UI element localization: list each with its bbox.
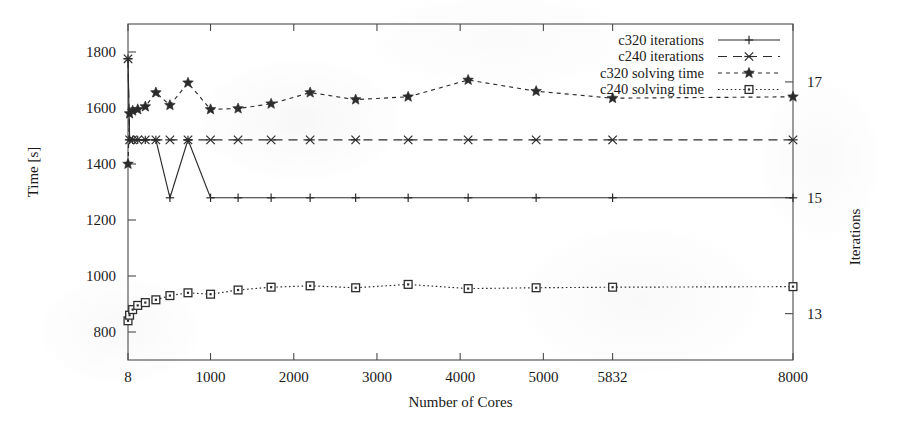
data-point-square: [309, 285, 311, 287]
y2-tick-label: 15: [807, 190, 822, 206]
series-line: [128, 284, 793, 320]
y2-axis-title: Iterations: [847, 209, 863, 266]
data-point-star: [233, 103, 244, 113]
data-point-square: [209, 293, 211, 295]
data-point-square: [169, 295, 171, 297]
data-point-square: [187, 292, 189, 294]
x-tick-label: 1000: [196, 369, 226, 385]
data-point-square: [355, 287, 357, 289]
data-point-square: [237, 289, 239, 291]
x-tick-label: 3000: [362, 369, 392, 385]
y-tick-label: 1200: [86, 212, 116, 228]
data-point-square: [792, 286, 794, 288]
chart-figure: 81000200030004000500058328000Number of C…: [0, 0, 898, 429]
legend-label-1: c240 iterations: [618, 48, 704, 64]
y-axis-title: Time [s]: [25, 147, 41, 198]
series-c240-solving-time: [124, 281, 797, 325]
x-tick-label: 8: [124, 369, 132, 385]
legend-sample-3: [718, 86, 780, 94]
data-point-square: [137, 304, 139, 306]
data-point-square: [748, 88, 750, 90]
y-tick-label: 1000: [86, 268, 116, 284]
data-point-star: [350, 94, 361, 104]
x-tick-label: 2000: [279, 369, 309, 385]
x-tick-label: 5832: [598, 369, 628, 385]
legend-sample-2: [718, 67, 780, 77]
y-tick-label: 1600: [86, 100, 116, 116]
data-point-star: [463, 74, 474, 84]
data-point-square: [155, 299, 157, 301]
legend-label-0: c320 iterations: [618, 32, 704, 48]
data-point-square: [467, 288, 469, 290]
data-point-star: [744, 67, 755, 77]
y-tick-label: 1400: [86, 156, 116, 172]
legend-label-2: c320 solving time: [600, 65, 704, 81]
data-point-square: [127, 320, 129, 322]
data-point-square: [612, 286, 614, 288]
data-point-square: [144, 302, 146, 304]
legend-sample-0: [718, 36, 780, 44]
y2-tick-label: 13: [807, 306, 822, 322]
legend-sample-1: [718, 52, 780, 60]
x-tick-label: 5000: [528, 369, 558, 385]
data-point-square: [535, 287, 537, 289]
data-point-square: [128, 314, 130, 316]
y2-tick-label: 17: [807, 74, 823, 90]
y-tick-label: 800: [94, 324, 117, 340]
data-point-star: [305, 87, 316, 97]
data-point-star: [266, 98, 277, 108]
x-axis-title: Number of Cores: [408, 394, 512, 410]
data-point-square: [270, 286, 272, 288]
x-tick-label: 8000: [778, 369, 808, 385]
legend-label-3: c240 solving time: [600, 81, 704, 97]
data-point-square: [407, 283, 409, 285]
data-point-star: [531, 86, 542, 96]
x-tick-label: 4000: [445, 369, 475, 385]
data-point-star: [183, 77, 194, 87]
chart-canvas: 81000200030004000500058328000Number of C…: [0, 0, 898, 429]
data-point-star: [403, 91, 414, 101]
y-tick-label: 1800: [86, 44, 116, 60]
